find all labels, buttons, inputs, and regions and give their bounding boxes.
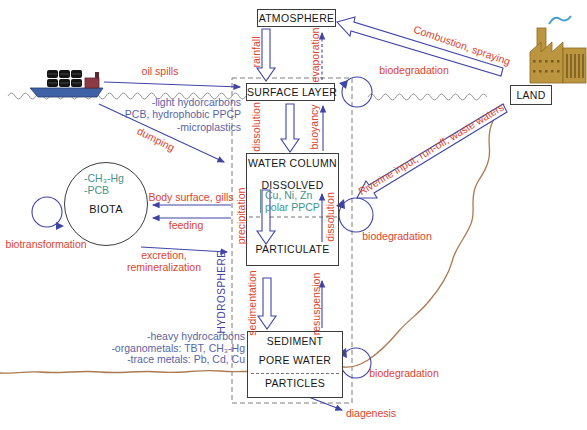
pollutant-item: -PCB, hydrophobic PPCP — [90, 108, 241, 120]
body-surface-label: Body surface, gills — [148, 191, 233, 203]
biodegradation-label-sediment: biodegradation — [369, 367, 438, 379]
excretion-label: excretion, remineralization — [127, 250, 201, 273]
dissolved-pollutants: Cu, Ni, Zn polar PPCP — [260, 189, 320, 213]
biotransformation-label: biotransformation — [5, 238, 86, 250]
excretion-line1: excretion, — [127, 250, 201, 262]
oil-spills-label: oil spills — [142, 65, 179, 77]
surface-layer-box: SURFACE LAYER — [246, 83, 335, 101]
buoyancy-label: buoyancy — [308, 105, 320, 150]
biotransformation-loop — [32, 197, 62, 227]
loop-arrowhead — [56, 222, 64, 230]
resuspension-label: resuspension — [310, 273, 322, 335]
water-column-label: WATER COLUMN — [247, 157, 338, 169]
sedimentation-label: sedimentation — [246, 270, 258, 335]
biota-label: BIOTA — [65, 203, 147, 215]
land-label: LAND — [511, 89, 551, 101]
precipitation-label: precipitation — [235, 188, 247, 245]
biodegradation-label-water: biodegradation — [362, 230, 431, 242]
cargo-ship-icon — [30, 70, 103, 97]
pollutant-cycle-diagram: ATMOSPHERE SURFACE LAYER WATER COLUMN DI… — [0, 0, 587, 430]
pore-water-particles-divider — [251, 373, 339, 374]
pollutant-item: Cu, Ni, Zn — [265, 189, 320, 201]
biodegradation-label-surface: biodegradation — [379, 64, 448, 76]
rainfall-label: rainfall — [250, 37, 262, 68]
pollutant-item: -microplastics — [90, 121, 241, 133]
sea-wave-right — [368, 94, 487, 100]
dissolution-label-water: dissolution — [324, 192, 336, 242]
surface-pollutants: -light hydorcarbons -PCB, hydrophobic PP… — [90, 96, 241, 133]
surface-layer-label: SURFACE LAYER — [247, 86, 334, 98]
land-box: LAND — [510, 85, 552, 105]
particulate-label: PARTICULATE — [247, 243, 338, 255]
pollutant-item: -CH₃-Hg — [84, 172, 124, 184]
sediment-pollutants: -heavy hydrocarbons -organometals: TBT, … — [85, 331, 245, 366]
excretion-line2: remineralization — [127, 261, 201, 273]
hydrosphere-label: HYDROSPHERE — [216, 251, 227, 334]
sedimentation-arrow — [258, 278, 276, 329]
biota-pollutants: -CH₃-Hg -PCB — [84, 172, 124, 196]
atmosphere-box: ATMOSPHERE — [257, 9, 336, 27]
sediment-box: SEDIMENT PORE WATER PARTICLES — [247, 331, 343, 398]
pollutant-item: polar PPCP — [265, 201, 320, 213]
pollutant-item: -trace metals: Pb, Cd, Cu — [85, 354, 245, 366]
factory-icon — [530, 16, 586, 83]
loop-arrowhead — [339, 80, 348, 89]
oil-spills-arrow — [104, 82, 240, 87]
pore-water-label: PORE WATER — [248, 354, 342, 366]
pollutant-item: -PCB — [84, 184, 124, 196]
evaporation-label: evaporation — [309, 28, 321, 83]
particles-label: PARTICLES — [248, 377, 342, 389]
pollutant-item: -light hydorcarbons — [90, 96, 241, 108]
dissolution-label-surface: dissolution — [250, 102, 262, 152]
feeding-label: feeding — [169, 219, 203, 231]
atmosphere-label: ATMOSPHERE — [258, 12, 335, 24]
diagenesis-label: diagenesis — [346, 407, 396, 419]
biota-circle: -CH₃-Hg -PCB BIOTA — [64, 162, 148, 246]
sediment-label: SEDIMENT — [248, 335, 342, 347]
dissolution-arrow-surface — [281, 104, 299, 152]
